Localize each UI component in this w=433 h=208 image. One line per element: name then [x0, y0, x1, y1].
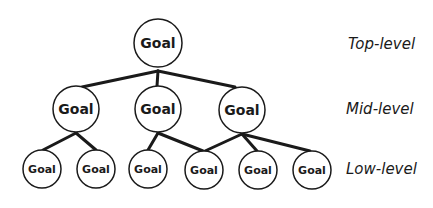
svg-text:Goal: Goal	[190, 164, 218, 177]
node-top: Goal	[134, 19, 182, 67]
node-low-5: Goal	[239, 151, 277, 189]
svg-text:Goal: Goal	[82, 163, 110, 176]
edge-mid3-low6	[242, 134, 310, 151]
svg-text:Goal: Goal	[140, 35, 175, 51]
node-low-6: Goal	[293, 151, 331, 189]
svg-text:Goal: Goal	[134, 163, 162, 176]
edge-top-mid1	[82, 71, 158, 87]
node-low-3: Goal	[129, 150, 167, 188]
edge-top-mid3	[158, 71, 235, 87]
node-low-1: Goal	[23, 150, 61, 188]
svg-text:Goal: Goal	[58, 101, 93, 117]
level-label-mid: Mid-level	[346, 100, 414, 118]
node-low-2: Goal	[77, 150, 115, 188]
edge-mid2-low3	[148, 133, 158, 150]
svg-text:Goal: Goal	[298, 164, 326, 177]
edge-mid1-low2	[76, 133, 96, 150]
svg-text:Goal: Goal	[244, 164, 272, 177]
node-mid-3: Goal	[219, 87, 265, 133]
node-low-4: Goal	[185, 151, 223, 189]
svg-text:Goal: Goal	[28, 163, 56, 176]
edge-mid1-low1	[43, 133, 76, 150]
svg-text:Goal: Goal	[224, 102, 259, 118]
svg-text:Goal: Goal	[140, 101, 175, 117]
node-mid-1: Goal	[53, 86, 99, 132]
level-label-top: Top-level	[348, 35, 415, 53]
edge-mid3-low4	[205, 134, 242, 151]
node-mid-2: Goal	[135, 86, 181, 132]
edge-top-mid2	[157, 71, 158, 86]
edge-mid2-low4	[158, 133, 203, 151]
level-label-low: Low-level	[346, 160, 417, 178]
